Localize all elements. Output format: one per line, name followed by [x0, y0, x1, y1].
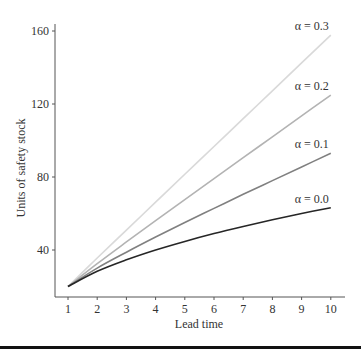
- series-label-0: α = 0.3: [295, 19, 329, 33]
- series-line-0: [68, 35, 331, 286]
- x-tick-label: 4: [153, 302, 159, 316]
- series-labels: α = 0.3α = 0.2α = 0.1α = 0.0: [295, 19, 329, 205]
- safety-stock-chart: 4080120160 12345678910 α = 0.3α = 0.2α =…: [0, 0, 361, 349]
- x-tick-label: 3: [123, 302, 129, 316]
- series-line-1: [68, 95, 331, 286]
- series-label-1: α = 0.2: [295, 79, 329, 93]
- y-tick-label: 40: [37, 243, 49, 257]
- y-tick-label: 120: [31, 97, 49, 111]
- x-tick-label: 10: [325, 302, 337, 316]
- y-axis-title: Units of safety stock: [14, 119, 28, 218]
- series-label-3: α = 0.0: [295, 192, 329, 206]
- x-tick-label: 9: [299, 302, 305, 316]
- y-tick-label: 160: [31, 24, 49, 38]
- x-tick-label: 5: [182, 302, 188, 316]
- x-tick-label: 7: [240, 302, 246, 316]
- series-label-2: α = 0.1: [295, 137, 329, 151]
- y-ticks: 4080120160: [31, 24, 55, 257]
- x-tick-label: 8: [269, 302, 275, 316]
- y-tick-label: 80: [37, 170, 49, 184]
- series-line-3: [68, 208, 331, 287]
- series-lines: [68, 35, 331, 286]
- x-tick-label: 2: [94, 302, 100, 316]
- x-tick-label: 1: [65, 302, 71, 316]
- x-tick-label: 6: [211, 302, 217, 316]
- x-ticks: 12345678910: [65, 297, 337, 316]
- x-axis-title: Lead time: [175, 317, 223, 331]
